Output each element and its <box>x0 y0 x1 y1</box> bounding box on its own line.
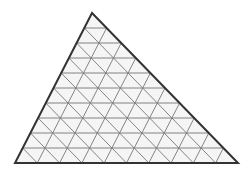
subdivided-triangle-diagram <box>0 0 251 174</box>
figure-canvas <box>0 0 251 174</box>
